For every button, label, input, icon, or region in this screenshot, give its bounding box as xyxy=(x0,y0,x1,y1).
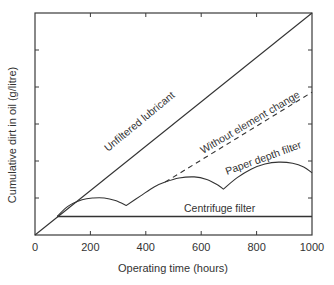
annotations: Unfiltered lubricant Without element cha… xyxy=(102,88,304,214)
x-tick-label: 600 xyxy=(192,241,210,253)
x-tick-label: 800 xyxy=(247,241,265,253)
chart: 02004006008001000 Unfiltered lubricant W… xyxy=(0,0,334,285)
label-centrifuge-filter: Centrifuge filter xyxy=(184,202,256,214)
label-unfiltered-lubricant: Unfiltered lubricant xyxy=(102,89,177,154)
series-layer xyxy=(35,13,312,235)
x-axis-label: Operating time (hours) xyxy=(118,262,228,274)
y-axis-label: Cumulative dirt in oil (g/litre) xyxy=(6,67,18,203)
x-tick-label: 400 xyxy=(137,241,155,253)
x-tick-label: 200 xyxy=(81,241,99,253)
x-tick-label: 0 xyxy=(32,241,38,253)
x-tick-label: 1000 xyxy=(300,241,324,253)
label-paper-depth-filter: Paper depth filter xyxy=(224,138,304,177)
